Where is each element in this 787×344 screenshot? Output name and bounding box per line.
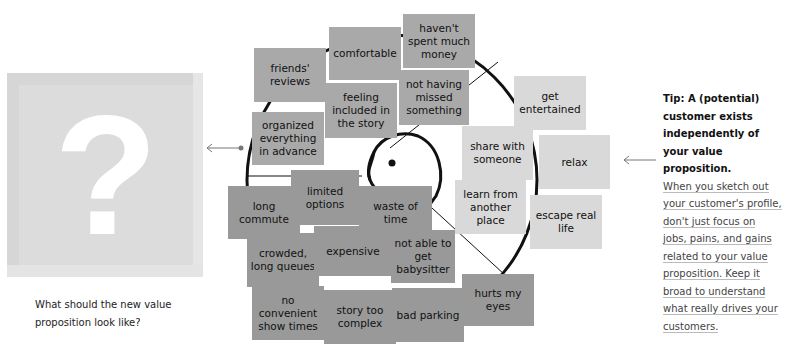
tip-line: jobs, pains, and gains bbox=[663, 233, 772, 245]
tip-body: When you sketch out your customer's prof… bbox=[663, 178, 787, 336]
tip-heading: Tip: A (potential) customer exists indep… bbox=[663, 90, 787, 178]
tip-line: related to your value bbox=[663, 251, 768, 263]
pain-note: hurts my eyes bbox=[462, 274, 534, 326]
tip-line: your customer's profile, bbox=[663, 198, 782, 210]
tip-line: don't just focus on bbox=[663, 216, 755, 228]
tip-panel: Tip: A (potential) customer exists indep… bbox=[663, 90, 787, 335]
job-note: escape real life bbox=[530, 195, 602, 249]
tip-line: broad to understand bbox=[663, 286, 765, 298]
pain-note: expensive bbox=[314, 226, 392, 276]
pain-note: limited options bbox=[291, 170, 359, 225]
gain-note: feeling included in the story bbox=[325, 83, 397, 138]
tip-line: When you sketch out bbox=[663, 181, 769, 193]
job-note: get entertained bbox=[514, 76, 586, 130]
job-note: share with someone bbox=[462, 126, 533, 180]
pain-note: no convenient show times bbox=[252, 286, 324, 340]
gain-note: organized everything in advance bbox=[252, 112, 324, 165]
pain-note: story too complex bbox=[324, 290, 396, 344]
pain-note: crowded, long queues bbox=[247, 233, 319, 287]
pain-note: bad parking bbox=[392, 288, 464, 342]
tip-line: what really drives your bbox=[663, 303, 778, 315]
gain-note: haven't spent much money bbox=[403, 14, 475, 68]
gain-note: not having missed something bbox=[399, 70, 469, 125]
pain-note: not able to get babysitter bbox=[391, 230, 455, 283]
job-note: learn from another place bbox=[455, 180, 526, 234]
gain-note: comfortable bbox=[329, 27, 401, 80]
pain-note: long commute bbox=[228, 186, 300, 239]
job-note: relax bbox=[539, 135, 610, 189]
tip-line: customers. bbox=[663, 321, 718, 333]
tip-line: proposition. Keep it bbox=[663, 268, 760, 280]
gain-note: friends' reviews bbox=[254, 48, 326, 102]
